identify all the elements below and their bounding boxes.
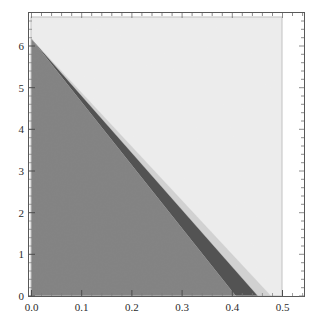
shaded-regions-group <box>31 17 282 296</box>
ytick-label-1: 1 <box>12 249 24 260</box>
xtick-label-3: 0.3 <box>175 302 189 313</box>
paper-texture-overlay <box>31 17 282 296</box>
ytick-label-3: 3 <box>12 166 24 177</box>
xtick-label-2: 0.2 <box>125 302 139 313</box>
xtick-label-4: 0.4 <box>225 302 239 313</box>
yaxis-right-ticks <box>299 21 304 296</box>
ytick-label-4: 4 <box>12 124 24 135</box>
xtick-label-5: 0.5 <box>276 302 290 313</box>
ytick-label-6: 6 <box>12 41 24 52</box>
xtick-label-0: 0.0 <box>25 302 39 313</box>
xtick-label-1: 0.1 <box>75 302 89 313</box>
plot-canvas <box>0 0 322 326</box>
ytick-label-2: 2 <box>12 207 24 218</box>
region-plot-figure: 0.0 0.1 0.2 0.3 0.4 0.5 0 1 2 3 4 5 6 <box>0 0 322 326</box>
ytick-label-5: 5 <box>12 82 24 93</box>
ytick-label-0: 0 <box>12 291 24 302</box>
